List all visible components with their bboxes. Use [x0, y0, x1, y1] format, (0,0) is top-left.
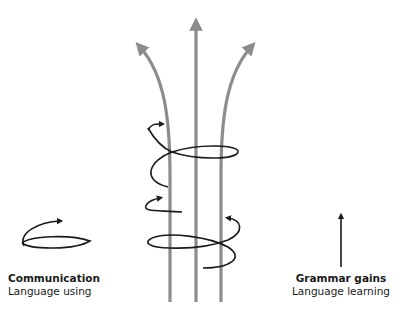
communication-title: Communication [8, 272, 98, 285]
right-strand [221, 47, 251, 302]
grammar-label: Grammar gains Language learning [291, 272, 391, 298]
upper-coil [148, 124, 238, 187]
grammar-title: Grammar gains [291, 272, 391, 285]
lower-coil-left [146, 198, 182, 212]
grammar-subtitle: Language learning [291, 285, 391, 298]
left-strand [140, 47, 170, 302]
communication-label: Communication Language using [8, 272, 98, 298]
spiral-arrow-icon [22, 221, 90, 248]
communication-subtitle: Language using [8, 285, 98, 298]
lower-coil-right [148, 218, 240, 268]
